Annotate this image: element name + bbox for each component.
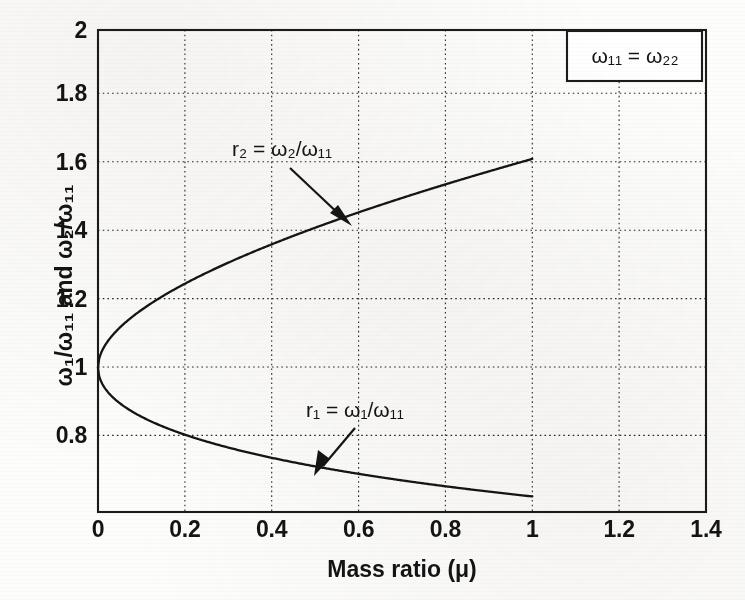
- chart-page: 2 1.8 1.6 1.4 1.2 1 0.8 0 0.2 0.4 0.6 0.…: [0, 0, 745, 600]
- legend-label: ω₁₁ = ω₂₂: [591, 44, 678, 68]
- horizontal-gridlines: [98, 93, 706, 435]
- x-tick-label: 0.2: [169, 516, 200, 543]
- x-tick-label: 0: [92, 516, 105, 543]
- x-tick-label: 1.2: [603, 516, 634, 543]
- annotation-label-lower: r₁ = ω₁/ω₁₁: [306, 398, 404, 422]
- plot-frame: [98, 30, 706, 512]
- x-tick-label: 0.6: [343, 516, 374, 543]
- annotation-label-upper: r₂ = ω₂/ω₁₁: [232, 137, 332, 161]
- vertical-gridlines: [185, 30, 619, 512]
- chart-canvas: [0, 0, 745, 600]
- x-axis-title: Mass ratio (μ): [327, 556, 477, 583]
- y-tick-label: 1.8: [56, 80, 87, 107]
- curve-r1: [98, 368, 532, 497]
- x-tick-label: 1.4: [690, 516, 721, 543]
- x-tick-label: 1: [526, 516, 539, 543]
- y-tick-label: 2: [74, 17, 87, 44]
- x-tick-label: 0.8: [430, 516, 461, 543]
- x-tick-label: 0.4: [256, 516, 287, 543]
- annotation-arrow-upper: [290, 168, 352, 226]
- y-axis-title: ω₁/ω₁₁ and ω₂/ω₁₁: [51, 136, 78, 436]
